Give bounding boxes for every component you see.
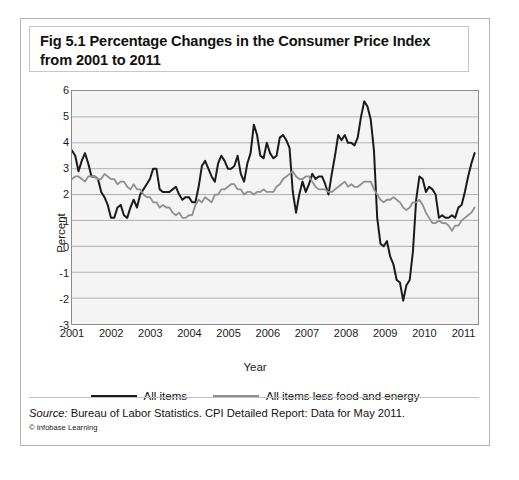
legend-item: All items — [91, 390, 187, 402]
x-tick-label: 2009 — [373, 327, 397, 339]
source-note: Source: Bureau of Labor Statistics. CPI … — [29, 407, 479, 419]
chart-area: Percent 6543210-1-2-3 200120022003200420… — [21, 77, 489, 377]
x-tick-label: 2002 — [99, 327, 123, 339]
y-tick-label: 1 — [39, 215, 69, 227]
chart-svg — [72, 91, 478, 324]
y-tick-label: -1 — [39, 267, 69, 279]
x-tick-label: 2011 — [452, 327, 476, 339]
source-prefix: Source: — [29, 407, 68, 419]
title-box: Fig 5.1 Percentage Changes in the Consum… — [29, 26, 469, 72]
y-tick-label: 4 — [39, 136, 69, 148]
y-tick-label: 5 — [39, 110, 69, 122]
plot-canvas — [71, 90, 479, 325]
legend-label: All items — [144, 390, 187, 402]
figure-container: Fig 5.1 Percentage Changes in the Consum… — [20, 18, 490, 446]
y-tick-label: -2 — [39, 293, 69, 305]
x-tick-label: 2003 — [138, 327, 162, 339]
publisher-credit: © Infobase Learning — [29, 423, 479, 432]
source-text: Bureau of Labor Statistics. CPI Detailed… — [68, 407, 405, 419]
divider — [29, 397, 479, 398]
y-tick-label: 2 — [39, 188, 69, 200]
x-tick-label: 2005 — [216, 327, 240, 339]
y-axis-ticks: 6543210-1-2-3 — [33, 90, 69, 325]
x-tick-label: 2004 — [177, 327, 201, 339]
page-background: Fig 5.1 Percentage Changes in the Consum… — [0, 0, 519, 480]
y-tick-label: 6 — [39, 84, 69, 96]
x-tick-label: 2001 — [60, 327, 84, 339]
y-tick-label: 3 — [39, 162, 69, 174]
x-axis-ticks: 2001200220032004200520062007200820092010… — [71, 327, 481, 345]
x-tick-label: 2007 — [295, 327, 319, 339]
source-box: Source: Bureau of Labor Statistics. CPI … — [29, 407, 479, 439]
chart-legend: All itemsAll items less food and energy — [21, 385, 489, 407]
x-tick-label: 2010 — [412, 327, 436, 339]
x-axis-label: Year — [21, 361, 489, 373]
x-tick-label: 2008 — [334, 327, 358, 339]
legend-item: All items less food and energy — [213, 390, 419, 402]
y-tick-label: 0 — [39, 241, 69, 253]
x-tick-label: 2006 — [256, 327, 280, 339]
legend-label: All items less food and energy — [266, 390, 419, 402]
page-title: Fig 5.1 Percentage Changes in the Consum… — [40, 32, 464, 70]
